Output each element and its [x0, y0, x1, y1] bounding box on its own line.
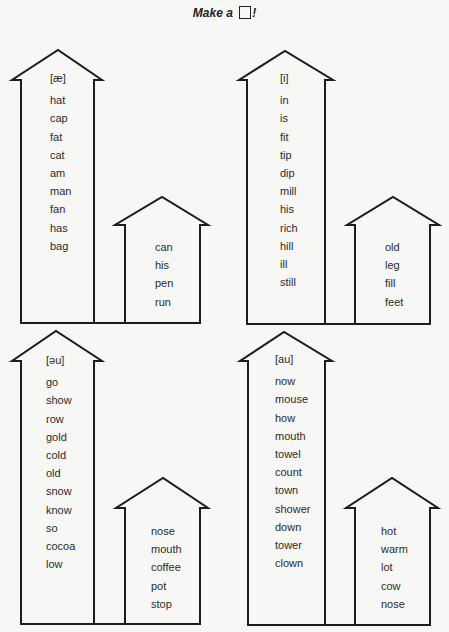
- word: so: [46, 519, 75, 537]
- word: cap: [50, 109, 71, 127]
- word: row: [46, 410, 75, 428]
- word: leg: [385, 256, 403, 274]
- word: ill: [280, 255, 298, 273]
- word: now: [275, 372, 310, 390]
- word: tower: [275, 536, 310, 554]
- word: nose: [381, 595, 408, 613]
- word: show: [46, 391, 75, 409]
- word: mill: [280, 182, 298, 200]
- word: fill: [385, 274, 403, 292]
- word: bag: [50, 237, 71, 255]
- word: rich: [280, 219, 298, 237]
- word: go: [46, 373, 75, 391]
- word: old: [46, 464, 75, 482]
- small-house-top-left-words: can his pen run: [155, 238, 173, 311]
- house-group-top-right: [239, 51, 439, 324]
- word: mouth: [275, 427, 310, 445]
- word: hat: [50, 91, 71, 109]
- word: stop: [151, 595, 182, 613]
- big-house-bottom-left-words: [əu] go show row gold cold old snow know…: [46, 351, 75, 573]
- word: fit: [280, 128, 298, 146]
- word: pot: [151, 577, 182, 595]
- phonetic-label: [əu]: [46, 351, 75, 369]
- big-house-top-right-words: [i] in is fit tip dip mill his rich hill…: [280, 69, 298, 291]
- word: fat: [50, 128, 71, 146]
- word: in: [280, 91, 298, 109]
- word: how: [275, 409, 310, 427]
- word: am: [50, 164, 71, 182]
- word: fan: [50, 200, 71, 218]
- big-house-top-left-words: [æ] hat cap fat cat am man fan has bag: [50, 69, 71, 255]
- word: clown: [275, 554, 310, 572]
- word: down: [275, 518, 310, 536]
- word: cat: [50, 146, 71, 164]
- word: shower: [275, 500, 310, 518]
- word: tip: [280, 146, 298, 164]
- phonetic-label: [au]: [275, 350, 310, 368]
- word: feet: [385, 293, 403, 311]
- word: nose: [151, 522, 182, 540]
- phonetic-label: [æ]: [50, 69, 71, 87]
- house-group-bottom-right: [240, 332, 438, 625]
- word: run: [155, 293, 173, 311]
- big-house-bottom-right-words: [au] now mouse how mouth towel count tow…: [275, 350, 310, 572]
- word: snow: [46, 482, 75, 500]
- word: cocoa: [46, 537, 75, 555]
- word: low: [46, 555, 75, 573]
- word: mouth: [151, 540, 182, 558]
- word: warm: [381, 540, 408, 558]
- word: coffee: [151, 558, 182, 576]
- word: man: [50, 182, 71, 200]
- word: is: [280, 109, 298, 127]
- word: gold: [46, 428, 75, 446]
- word: pen: [155, 274, 173, 292]
- word: dip: [280, 164, 298, 182]
- word: towel: [275, 445, 310, 463]
- word: old: [385, 238, 403, 256]
- small-house-bottom-right-words: hot warm lot cow nose: [381, 522, 408, 613]
- word: mouse: [275, 390, 310, 408]
- word: hill: [280, 237, 298, 255]
- word: cold: [46, 446, 75, 464]
- small-house-bottom-left-words: nose mouth coffee pot stop: [151, 522, 182, 613]
- word: still: [280, 273, 298, 291]
- word: town: [275, 481, 310, 499]
- word: cow: [381, 577, 408, 595]
- word: count: [275, 463, 310, 481]
- word: his: [280, 200, 298, 218]
- word: his: [155, 256, 173, 274]
- word: know: [46, 501, 75, 519]
- word: hot: [381, 522, 408, 540]
- word: can: [155, 238, 173, 256]
- phonetic-label: [i]: [280, 69, 298, 87]
- small-house-top-right-words: old leg fill feet: [385, 238, 403, 311]
- word: lot: [381, 558, 408, 576]
- house-group-top-left: [12, 50, 208, 323]
- word: has: [50, 219, 71, 237]
